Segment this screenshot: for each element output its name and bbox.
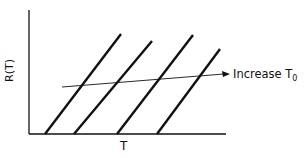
arrow-label-text: Increase T <box>233 67 292 81</box>
x-axis-label: T <box>120 139 127 153</box>
arrow-label: Increase T0 <box>233 67 297 83</box>
curve-line-2 <box>74 41 152 134</box>
resistance-curves <box>45 34 220 134</box>
curve-line-4 <box>157 49 220 134</box>
curve-line-1 <box>45 34 121 134</box>
curve-line-3 <box>117 35 193 134</box>
arrow-label-subscript: 0 <box>292 74 297 83</box>
arrow-head-icon <box>222 71 230 77</box>
y-axis-label: R(T) <box>3 59 16 82</box>
